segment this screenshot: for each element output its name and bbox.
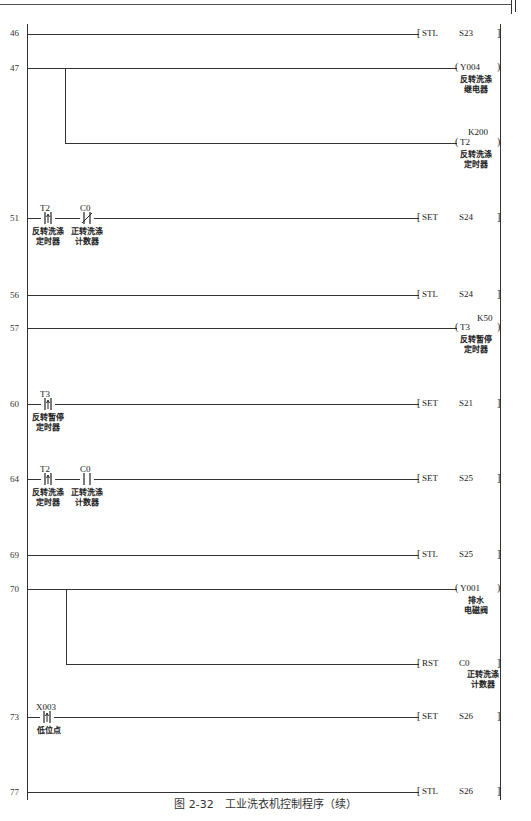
- coil-comment: 反转暂停 定时器: [456, 335, 496, 355]
- rising-edge-contact-icon: [41, 473, 55, 485]
- coil-close: ): [497, 582, 500, 593]
- rising-edge-contact: [41, 398, 55, 410]
- normally-open-contact-icon: [80, 473, 94, 485]
- coil-open: (: [455, 136, 458, 147]
- branch-rung-wire: [66, 664, 419, 665]
- instruction-bracket-close: ]: [497, 27, 500, 38]
- instruction-operand: S24: [459, 212, 473, 222]
- instruction-bracket-close: ]: [497, 397, 500, 408]
- instruction-bracket-open: [: [417, 472, 420, 483]
- branch-wire: [65, 68, 66, 144]
- step-number: 46: [10, 28, 30, 38]
- instruction-bracket-open: [: [417, 288, 420, 299]
- instruction-mnemonic: SET: [422, 212, 438, 222]
- contact-comment: 反转暂停 定时器: [27, 413, 69, 433]
- instruction-bracket-close: ]: [497, 211, 500, 222]
- coil-device: T2: [460, 137, 470, 147]
- instruction-bracket-close: ]: [497, 548, 500, 559]
- instruction-mnemonic: RST: [422, 658, 439, 668]
- instruction-bracket-close: ]: [497, 710, 500, 721]
- instruction-operand: S25: [459, 473, 473, 483]
- rising-edge-contact-icon: [40, 711, 54, 723]
- instruction-mnemonic: SET: [422, 473, 438, 483]
- rising-edge-contact: [41, 212, 55, 224]
- coil-open: (: [455, 61, 458, 72]
- branch-rung-wire: [65, 143, 457, 144]
- operand-comment: 正转洗涤 计数器: [462, 670, 504, 690]
- rung-wire: [27, 717, 419, 718]
- page-corner-mark-2: [515, 0, 516, 12]
- coil-device: Y001: [460, 583, 480, 593]
- instruction-bracket-open: [: [417, 397, 420, 408]
- rung-wire: [27, 589, 457, 590]
- coil-comment: 反转洗涤 定时器: [456, 150, 496, 170]
- rung-wire: [27, 68, 457, 69]
- instruction-bracket-open: [: [417, 211, 420, 222]
- instruction-operand: S26: [459, 711, 473, 721]
- instruction-operand: C0: [459, 658, 470, 668]
- instruction-bracket-close: ]: [497, 472, 500, 483]
- instruction-mnemonic: STL: [422, 549, 438, 559]
- coil-device: Y004: [460, 62, 480, 72]
- coil-comment: 反转洗涤 继电器: [456, 75, 496, 95]
- instruction-mnemonic: SET: [422, 398, 438, 408]
- instruction-bracket-close: ]: [497, 657, 500, 668]
- coil-comment: 排水 电磁阀: [456, 596, 496, 616]
- page-top-rule: [0, 4, 512, 5]
- instruction-bracket-open: [: [417, 710, 420, 721]
- rising-edge-contact-icon: [41, 398, 55, 410]
- coil-open: (: [455, 321, 458, 332]
- rising-edge-contact: [40, 711, 54, 723]
- rising-edge-contact: [41, 473, 55, 485]
- contact-comment: 反转洗涤 定时器: [27, 227, 69, 247]
- left-power-rail: [27, 24, 28, 800]
- branch-wire: [66, 589, 67, 665]
- instruction-mnemonic: STL: [422, 28, 438, 38]
- figure-caption: 图 2-32 工业洗衣机控制程序（续）: [0, 795, 531, 811]
- coil-close: ): [497, 136, 500, 147]
- instruction-bracket-open: [: [417, 548, 420, 559]
- contact-comment: 正转洗涤 计数器: [66, 488, 108, 508]
- instruction-operand: S24: [459, 289, 473, 299]
- instruction-bracket-open: [: [417, 657, 420, 668]
- rung-wire: [27, 555, 419, 556]
- instruction-bracket-open: [: [417, 27, 420, 38]
- rising-edge-contact-icon: [41, 212, 55, 224]
- rung-wire: [27, 34, 419, 35]
- coil-open: (: [455, 582, 458, 593]
- contact-comment: 低位点: [32, 726, 66, 736]
- instruction-operand: S21: [459, 398, 473, 408]
- coil-device: T3: [460, 322, 470, 332]
- page-corner-mark: [511, 0, 512, 14]
- instruction-operand: S25: [459, 549, 473, 559]
- rung-wire: [27, 404, 419, 405]
- normally-open-contact: [80, 473, 94, 485]
- rung-wire: [27, 295, 419, 296]
- contact-comment: 正转洗涤 计数器: [66, 227, 108, 247]
- instruction-bracket-close: ]: [497, 288, 500, 299]
- normally-closed-contact: [80, 212, 94, 224]
- instruction-mnemonic: SET: [422, 711, 438, 721]
- coil-close: ): [497, 61, 500, 72]
- rung-wire: [27, 792, 419, 793]
- timer-preset: K200: [468, 127, 488, 137]
- instruction-operand: S23: [459, 28, 473, 38]
- instruction-mnemonic: STL: [422, 289, 438, 299]
- coil-close: ): [497, 321, 500, 332]
- rung-wire: [27, 328, 457, 329]
- timer-preset: K50: [477, 313, 493, 323]
- normally-closed-contact-icon: [80, 212, 94, 224]
- contact-comment: 反转洗涤 定时器: [27, 488, 69, 508]
